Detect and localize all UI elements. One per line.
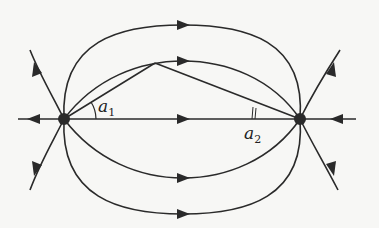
label-a2-base: a [244,123,254,143]
left-node-dot [58,113,70,125]
angle-a2-mark-1 [252,107,253,119]
flow-diagram: a1 a2 [0,0,379,228]
label-a1-base: a [98,96,108,116]
arrow-mid-axis-icon [177,114,190,124]
lower-outer-arc [64,119,301,214]
arrow-left-axis-icon [27,114,40,124]
angle-a2-mark-2 [255,108,256,119]
lower-inner-arc [64,119,300,178]
label-a1-sub: 1 [108,106,115,119]
left-lower-ray [30,119,64,190]
label-a2-sub: 2 [254,133,261,146]
arrow-right-axis-icon [330,114,343,124]
triangle-right-edge [155,63,300,119]
diagram-svg [0,0,379,228]
right-lower-ray [300,119,338,190]
right-upper-ray [300,50,340,119]
arrow-right-lower-ray-icon [326,161,336,176]
arrow-upper-inner-icon [177,56,190,66]
arrow-lower-inner-icon [177,173,190,183]
label-a2: a2 [244,125,261,145]
left-upper-ray [30,50,64,119]
arrow-lower-outer-icon [177,209,190,219]
right-node-dot [294,113,306,125]
arrow-upper-outer-icon [177,20,190,30]
label-a1: a1 [98,98,115,118]
angle-a1-arc [91,102,96,119]
